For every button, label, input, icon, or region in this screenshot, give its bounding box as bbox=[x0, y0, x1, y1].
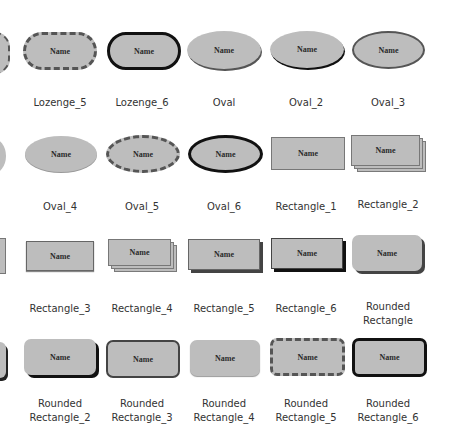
shape-cell-rounded-rectangle-4[interactable]: Name Rounded Rectangle_4 bbox=[183, 0, 265, 443]
edge-fragment-rounded-rectangle bbox=[0, 342, 6, 378]
shape-text: Name bbox=[130, 248, 150, 257]
rounded-rectangle-5-shape[interactable]: Name bbox=[270, 338, 345, 376]
shape-text: Name bbox=[214, 250, 234, 259]
edge-fragment-lozenge bbox=[0, 32, 10, 74]
shape-cell-rounded-rectangle-2[interactable]: Name Rounded Rectangle_2 bbox=[19, 0, 101, 443]
shape-text: Name bbox=[215, 354, 235, 363]
shape-text: Name bbox=[297, 249, 317, 258]
rounded-rectangle-4-shape[interactable]: Name bbox=[190, 340, 260, 376]
shape-label-line2: Rectangle_6 bbox=[347, 411, 429, 425]
shape-label-line2: Rectangle_2 bbox=[19, 411, 101, 425]
shape-cell-rounded-rectangle-3[interactable]: Name Rounded Rectangle_3 bbox=[101, 0, 183, 443]
shape-text: Name bbox=[297, 45, 317, 54]
shape-text: Name bbox=[133, 355, 153, 364]
edge-fragment-oval bbox=[0, 138, 6, 174]
edge-fragment-rectangle bbox=[0, 238, 6, 274]
shape-text: Name bbox=[134, 47, 154, 56]
shape-label-line2: Rectangle_5 bbox=[265, 411, 347, 425]
shape-label-line1: Rounded bbox=[183, 397, 265, 411]
shape-text: Name bbox=[298, 149, 318, 158]
rounded-rectangle-2-shape[interactable]: Name bbox=[24, 339, 96, 375]
shape-text: Name bbox=[377, 249, 397, 258]
shape-text: Name bbox=[51, 150, 71, 159]
rounded-rectangle-3-shape[interactable]: Name bbox=[106, 340, 180, 378]
shape-cell-rounded-rectangle-6[interactable]: Name Rounded Rectangle_6 bbox=[347, 0, 429, 443]
shape-text: Name bbox=[50, 353, 70, 362]
shape-text: Name bbox=[380, 353, 400, 362]
shape-text: Name bbox=[50, 252, 70, 261]
shape-label-line2: Rectangle_4 bbox=[183, 411, 265, 425]
shape-label-line1: Rounded bbox=[19, 397, 101, 411]
shape-label-line1: Rounded bbox=[101, 397, 183, 411]
shape-label-line2: Rectangle_3 bbox=[101, 411, 183, 425]
shape-label-line1: Rounded bbox=[347, 397, 429, 411]
shape-text: Name bbox=[379, 46, 399, 55]
shape-text: Name bbox=[298, 353, 318, 362]
rounded-rectangle-6-shape[interactable]: Name bbox=[352, 338, 427, 377]
shape-text: Name bbox=[50, 47, 70, 56]
shape-text: Name bbox=[214, 46, 234, 55]
shape-text: Name bbox=[376, 146, 396, 155]
shape-text: Name bbox=[216, 150, 236, 159]
shape-text: Name bbox=[133, 150, 153, 159]
shape-label-line1: Rounded bbox=[265, 397, 347, 411]
shape-cell-rounded-rectangle-5[interactable]: Name Rounded Rectangle_5 bbox=[265, 0, 347, 443]
